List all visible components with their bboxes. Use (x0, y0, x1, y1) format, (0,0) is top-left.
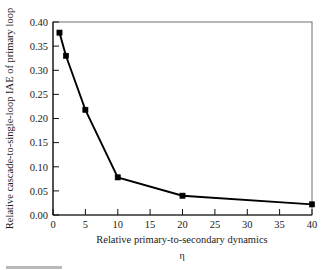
y-tick-label: 0.40 (30, 17, 48, 28)
y-tick-label: 0.30 (30, 65, 48, 76)
data-point-marker (83, 107, 88, 112)
y-tick-label: 0.25 (30, 89, 48, 100)
data-point-marker (57, 30, 62, 35)
y-tick-label: 0.20 (30, 113, 48, 124)
y-axis-ticks (53, 22, 59, 215)
data-point-marker (115, 175, 120, 180)
x-axis-ticks (53, 209, 312, 215)
x-tick-label: 10 (113, 219, 124, 230)
data-series-markers (57, 30, 315, 207)
y-tick-label: 0.10 (30, 162, 48, 173)
y-tick-label: 0.15 (30, 137, 48, 148)
x-tick-label: 35 (274, 219, 285, 230)
figure-container: 0.00 0.05 0.10 0.15 0.20 0.25 0.30 0.35 … (0, 0, 327, 270)
caption-rule (6, 266, 62, 269)
x-tick-label: 15 (145, 219, 156, 230)
x-axis-variable-symbol: η (179, 250, 184, 261)
x-tick-label: 30 (242, 219, 253, 230)
x-tick-label: 25 (210, 219, 221, 230)
data-point-marker (309, 202, 314, 207)
data-point-marker (63, 53, 68, 58)
x-tick-label: 0 (50, 219, 55, 230)
chart-canvas: 0.00 0.05 0.10 0.15 0.20 0.25 0.30 0.35 … (0, 0, 327, 270)
data-series-line (59, 33, 312, 205)
x-axis-tick-labels: 0 5 10 15 20 25 30 35 40 (50, 219, 317, 230)
y-axis-title: Relative cascade-to-single-loop IAE of p… (4, 8, 15, 229)
data-point-marker (180, 193, 185, 198)
y-tick-label: 0.00 (30, 210, 48, 221)
x-tick-label: 40 (307, 219, 318, 230)
y-axis-tick-labels: 0.00 0.05 0.10 0.15 0.20 0.25 0.30 0.35 … (30, 17, 48, 221)
x-tick-label: 20 (177, 219, 188, 230)
x-axis-title: Relative primary-to-secondary dynamics (96, 234, 267, 245)
plot-frame (53, 22, 312, 215)
y-tick-label: 0.35 (30, 41, 48, 52)
y-tick-label: 0.05 (30, 186, 48, 197)
x-tick-label: 5 (83, 219, 88, 230)
